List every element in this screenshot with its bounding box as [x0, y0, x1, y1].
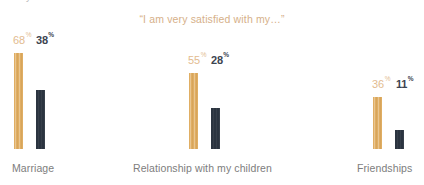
bar-series-2[interactable]	[211, 108, 220, 149]
value-number: 11	[396, 78, 407, 90]
percent-sign: %	[48, 31, 54, 38]
percent-sign: %	[385, 75, 391, 82]
percent-sign: %	[223, 51, 229, 58]
value-label-series-2: 28%	[211, 51, 229, 67]
value-label-series-2: 38%	[36, 31, 54, 47]
bar-pair	[373, 36, 413, 149]
value-label-series-2: 11%	[396, 75, 413, 91]
value-label-series-1: 36%	[372, 75, 390, 91]
category-label: Marriage	[12, 162, 54, 174]
percent-sign: %	[201, 51, 207, 58]
category-label: Relationship with my children	[133, 162, 272, 174]
value-label-series-1: 68%	[13, 31, 31, 47]
value-number: 68	[13, 34, 25, 46]
percent-sign: %	[26, 31, 32, 38]
percent-sign: %	[408, 75, 414, 82]
bar-series-1[interactable]	[373, 97, 382, 149]
value-number: 38	[36, 34, 48, 46]
bar-chart-plot-area: 68% 38% 55% 28% 36% 11% Marriage Rel	[0, 0, 424, 185]
bar-series-2[interactable]	[395, 130, 404, 149]
bar-group: 36% 11%	[373, 0, 413, 185]
value-label-series-1: 55%	[188, 51, 206, 67]
value-number: 55	[188, 54, 200, 66]
bar-series-1[interactable]	[189, 73, 198, 149]
value-number: 36	[372, 78, 384, 90]
bar-pair	[14, 36, 54, 149]
category-label: Friendships	[357, 162, 412, 174]
value-number: 28	[211, 54, 223, 66]
bar-series-2[interactable]	[36, 90, 45, 149]
bar-series-1[interactable]	[14, 53, 23, 149]
bar-group: 68% 38%	[14, 0, 54, 185]
bar-group: 55% 28%	[189, 0, 229, 185]
